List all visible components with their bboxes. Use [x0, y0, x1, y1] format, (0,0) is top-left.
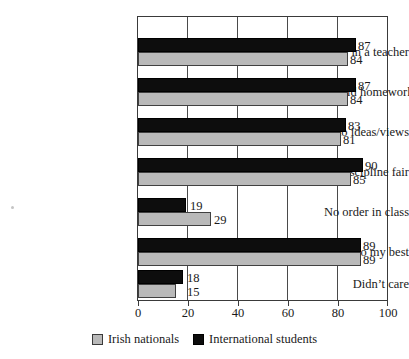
legend-item-irish-nationals: Irish nationals: [92, 333, 179, 346]
bar-value-international-5: 89: [363, 240, 376, 252]
xtick-label-100: 100: [379, 307, 398, 320]
bar-irish-4: [138, 212, 211, 226]
bar-irish-0: [138, 52, 348, 66]
horizontal-bar-chart: Confide in a teacher 87 84 Made sure I d…: [0, 0, 409, 359]
bar-international-1: [138, 78, 356, 92]
xtick-label-60: 60: [282, 307, 295, 320]
xtick-label-20: 20: [182, 307, 195, 320]
bar-value-international-4: 19: [190, 200, 203, 212]
black-swatch-icon: [193, 334, 204, 345]
bar-value-irish-3: 85: [353, 174, 366, 186]
bar-international-0: [138, 38, 356, 52]
bar-value-international-0: 87: [358, 40, 371, 52]
bar-value-international-1: 87: [358, 80, 371, 92]
bar-value-irish-4: 29: [214, 214, 227, 226]
bar-irish-2: [138, 132, 341, 146]
legend-label-international-students: International students: [209, 333, 317, 346]
bar-irish-5: [138, 252, 361, 266]
xtick-label-40: 40: [232, 307, 245, 320]
bar-value-irish-2: 81: [343, 134, 356, 146]
legend-item-international-students: International students: [193, 333, 317, 346]
bar-international-4: [138, 198, 186, 212]
xtick-label-0: 0: [135, 307, 141, 320]
gray-swatch-icon: [92, 334, 103, 345]
chart-legend: Irish nationals International students: [0, 333, 409, 346]
bar-international-5: [138, 238, 361, 252]
bar-value-irish-0: 84: [350, 54, 363, 66]
category-label-6: Didn’t care: [278, 278, 409, 291]
bar-value-irish-5: 89: [363, 254, 376, 266]
bar-irish-3: [138, 172, 351, 186]
bar-international-3: [138, 158, 363, 172]
bar-value-irish-6: 15: [187, 286, 200, 298]
bar-international-6: [138, 270, 183, 284]
xtick-label-80: 80: [332, 307, 345, 320]
scan-artifact-speck: [11, 206, 14, 209]
bar-value-irish-1: 84: [350, 94, 363, 106]
bar-irish-6: [138, 284, 176, 298]
bar-value-international-6: 18: [187, 272, 200, 284]
bar-value-international-2: 83: [348, 120, 361, 132]
bar-value-international-3: 90: [365, 160, 378, 172]
legend-label-irish-nationals: Irish nationals: [108, 333, 179, 346]
bar-international-2: [138, 118, 346, 132]
bar-irish-1: [138, 92, 348, 106]
category-label-4: No order in class: [278, 206, 409, 219]
